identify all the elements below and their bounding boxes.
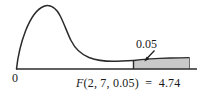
tail-area-label: 0.05	[136, 38, 157, 50]
critical-value-caption: F(2, 7, 0.05) = 4.74	[76, 77, 181, 89]
f-arguments: (2, 7, 0.05)	[84, 76, 139, 90]
critical-value-number: 4.74	[159, 76, 181, 90]
f-symbol: F	[76, 76, 84, 90]
density-curve	[17, 6, 134, 69]
f-distribution-figure: 0 0.05 F(2, 7, 0.05) = 4.74	[0, 0, 214, 95]
origin-axis-label: 0	[12, 72, 18, 84]
